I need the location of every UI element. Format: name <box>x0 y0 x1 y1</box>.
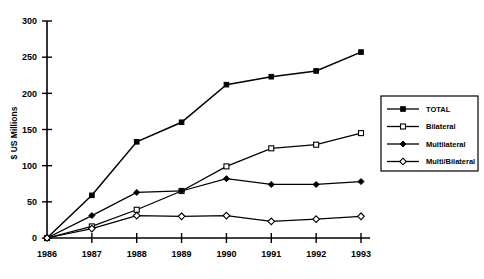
y-tick-label: 150 <box>22 125 37 135</box>
y-tick-label: 200 <box>22 89 37 99</box>
legend-label: Multilateral <box>426 140 466 149</box>
y-tick-label: 250 <box>22 52 37 62</box>
data-point <box>359 50 364 55</box>
x-tick-label: 1993 <box>351 249 371 259</box>
y-axis-title-text: $ US Millions <box>9 106 19 159</box>
data-point <box>314 142 319 147</box>
data-point <box>313 181 319 187</box>
data-point <box>133 212 140 219</box>
legend-marker <box>401 107 406 112</box>
data-point <box>313 216 320 223</box>
data-point <box>134 139 139 144</box>
y-tick-label: 0 <box>32 233 37 243</box>
y-tick-label: 300 <box>22 16 37 26</box>
chart-legend: TOTALBilateralMultilateralMulti/Bilatera… <box>381 96 478 171</box>
data-point <box>90 193 95 198</box>
y-axis: 050100150200250300 <box>22 16 52 243</box>
legend-label: Multi/Bilateral <box>426 157 475 166</box>
x-tick-label: 1991 <box>261 249 281 259</box>
y-tick-label: 50 <box>27 197 37 207</box>
legend-marker <box>401 124 406 129</box>
data-point <box>223 212 230 219</box>
data-point <box>224 164 229 169</box>
x-tick-label: 1988 <box>127 249 147 259</box>
data-point <box>358 213 365 220</box>
data-point <box>269 146 274 151</box>
data-point <box>89 213 95 219</box>
data-point <box>269 74 274 79</box>
data-point <box>178 213 185 220</box>
data-point <box>359 131 364 136</box>
x-axis: 19861987198819891990199119921993 <box>37 233 371 259</box>
data-point <box>223 176 229 182</box>
series-container <box>44 50 365 241</box>
data-point <box>179 120 184 125</box>
data-point <box>268 181 274 187</box>
data-point <box>314 69 319 74</box>
data-point <box>224 82 229 87</box>
data-point <box>358 179 364 185</box>
x-tick-label: 1990 <box>216 249 236 259</box>
line-chart: 050100150200250300 198619871988198919901… <box>0 0 484 279</box>
y-axis-title: $ US Millions <box>9 106 19 159</box>
data-point <box>134 189 140 195</box>
x-tick-label: 1987 <box>82 249 102 259</box>
legend-label: Bilateral <box>426 122 456 131</box>
x-tick-label: 1992 <box>306 249 326 259</box>
y-tick-label: 100 <box>22 161 37 171</box>
x-tick-label: 1986 <box>37 249 57 259</box>
x-tick-label: 1989 <box>172 249 192 259</box>
legend-label: TOTAL <box>426 105 451 114</box>
chart-canvas: 050100150200250300 198619871988198919901… <box>0 0 484 279</box>
data-point <box>268 218 275 225</box>
